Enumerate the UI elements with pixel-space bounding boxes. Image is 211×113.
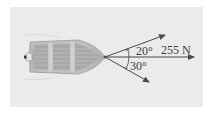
upper-rope-arrow [105,35,165,57]
upper-angle-label: 20° [136,45,153,57]
boat-seat-rear [48,42,53,72]
lower-angle-arc [126,57,129,69]
resultant-force-label: 255 N [161,44,191,56]
boat [24,40,107,74]
boat-seat-front [70,41,75,72]
boat-motor [26,53,32,61]
boat-motor-prop [24,56,27,59]
angle-arcs [124,49,129,70]
lower-angle-label: 30° [130,60,147,72]
